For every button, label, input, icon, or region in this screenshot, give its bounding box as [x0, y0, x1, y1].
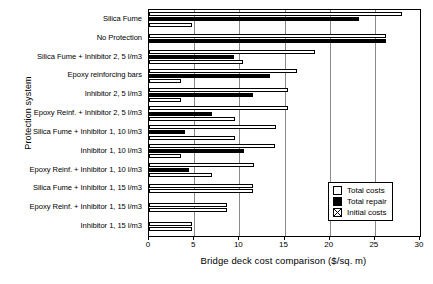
bar-initial-costs: [149, 189, 253, 193]
bar-group: [149, 142, 420, 161]
bar-initial-costs: [149, 136, 235, 140]
legend-label: Total costs: [347, 186, 385, 195]
legend-item-initial-costs: Initial costs: [333, 208, 387, 217]
bar-group: [149, 48, 420, 67]
x-tick-label: 30: [415, 240, 424, 249]
bar-initial-costs: [149, 23, 192, 27]
category-label: Silica Fume + Inhibitor 2, 5 l/m3: [14, 47, 145, 66]
bar-chart: Protection system Silica FumeNo Protecti…: [0, 0, 433, 284]
bar-initial-costs: [149, 98, 181, 102]
bar-total-costs: [149, 50, 315, 54]
bar-group: [149, 29, 420, 48]
bar-group: [149, 10, 420, 29]
bar-total-costs: [149, 222, 192, 226]
bar-group: [149, 161, 420, 180]
bar-initial-costs: [149, 117, 235, 121]
x-tick-label: 0: [146, 240, 150, 249]
bar-group: [149, 104, 420, 123]
x-tick-label: 5: [191, 240, 195, 249]
bar-total-costs: [149, 203, 227, 207]
category-label: Inhibitor 1, 10 l/m3: [14, 141, 145, 160]
bar-initial-costs: [149, 227, 192, 231]
bar-total-repair: [149, 168, 189, 172]
legend-swatch-icon: [333, 208, 342, 217]
category-label: Epoxy Reinf. + Inhibitor 1, 15 l/m3: [14, 197, 145, 216]
bar-initial-costs: [149, 154, 181, 158]
x-tick-label: 15: [279, 240, 288, 249]
bar-total-costs: [149, 163, 254, 167]
legend-item-total-costs: Total costs: [333, 186, 387, 195]
bar-group: [149, 66, 420, 85]
bar-total-costs: [149, 184, 253, 188]
bar-initial-costs: [149, 60, 243, 64]
category-label: Silica Fume: [14, 9, 145, 28]
x-tick-label: 20: [324, 240, 333, 249]
category-label: Epoxy reinforcing bars: [14, 65, 145, 84]
bar-initial-costs: [149, 173, 212, 177]
x-tick-label: 10: [234, 240, 243, 249]
bar-total-costs: [149, 88, 288, 92]
bar-total-repair: [149, 74, 270, 78]
bar-total-costs: [149, 34, 386, 38]
bar-total-costs: [149, 106, 288, 110]
bar-total-costs: [149, 69, 297, 73]
bar-total-costs: [149, 125, 276, 129]
x-axis-ticks: 051015202530: [148, 236, 419, 252]
x-tick-label: 25: [369, 240, 378, 249]
bar-initial-costs: [149, 79, 181, 83]
category-label: Inhibitor 2, 5 l/m3: [14, 84, 145, 103]
x-axis-title: Bridge deck cost comparison ($/sq. m): [148, 255, 419, 266]
bar-total-costs: [149, 12, 402, 16]
legend-item-total-repair: Total repair: [333, 197, 387, 206]
bar-initial-costs: [149, 208, 227, 212]
category-label: No Protection: [14, 28, 145, 47]
bar-total-repair: [149, 112, 212, 116]
legend-swatch-icon: [333, 197, 342, 206]
legend-label: Initial costs: [347, 208, 387, 217]
chart-legend: Total costsTotal repairInitial costs: [328, 182, 393, 221]
bar-total-costs: [149, 144, 275, 148]
bar-total-repair: [149, 149, 244, 153]
bar-total-repair: [149, 93, 253, 97]
legend-label: Total repair: [347, 197, 387, 206]
category-label: Silica Fume + Inhibitor 1, 15 l/m3: [14, 178, 145, 197]
category-label: Silica Fume + Inhibitor 1, 10 l/m3: [14, 122, 145, 141]
category-label: Epoxy Reinf. + Inhibitor 2, 5 l/m3: [14, 103, 145, 122]
bar-total-repair: [149, 17, 359, 21]
category-label: Epoxy Reinf. + Inhibitor 1, 10 l/m3: [14, 160, 145, 179]
bar-group: [149, 123, 420, 142]
bar-total-repair: [149, 39, 386, 43]
legend-swatch-icon: [333, 186, 342, 195]
bar-group: [149, 85, 420, 104]
bar-total-repair: [149, 130, 185, 134]
y-axis-category-labels: Silica FumeNo ProtectionSilica Fume + In…: [14, 9, 145, 235]
category-label: Inhibitor 1, 15 l/m3: [14, 216, 145, 235]
bar-total-repair: [149, 55, 234, 59]
